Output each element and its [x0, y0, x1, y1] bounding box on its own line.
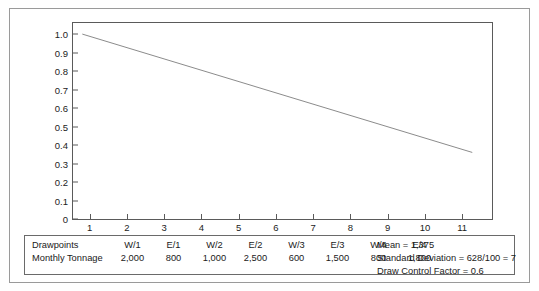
table-cell: E/2	[235, 239, 276, 252]
y-axis-tick-mark	[73, 126, 78, 127]
x-axis-tick-label: 4	[199, 222, 204, 233]
y-axis-tick-label: 0.3	[55, 158, 68, 169]
table-cell: E/1	[153, 239, 194, 252]
table-cell: W/1	[112, 239, 153, 252]
summary-note-line: Draw Control Factor = 0.6	[377, 265, 516, 278]
y-axis-tick-label: 0.5	[55, 121, 68, 132]
table-cell: 2,000	[112, 252, 153, 265]
x-axis-tick-mark	[276, 214, 277, 219]
table-row-label: Drawpoints	[32, 239, 112, 252]
summary-note-line: Standard Deviation = 628/100 = 7	[377, 252, 516, 265]
y-axis-tick-label: 0.7	[55, 84, 68, 95]
x-axis-tick-label: 6	[273, 222, 278, 233]
x-axis-tick-mark	[164, 214, 165, 219]
y-axis-tick-label: 0.4	[55, 140, 68, 151]
y-axis-tick-mark	[73, 163, 78, 164]
y-axis-tick-label: 0.8	[55, 66, 68, 77]
line-series-draw-control-factor	[73, 23, 492, 219]
table-cell: 600	[276, 252, 317, 265]
table-cell: E/3	[317, 239, 358, 252]
y-axis-tick-label: 0.1	[55, 195, 68, 206]
plot-inner: 00.10.20.30.40.50.60.70.80.91.0123456789…	[73, 23, 492, 219]
figure-root: 00.10.20.30.40.50.60.70.80.91.0123456789…	[0, 0, 539, 291]
x-axis-tick-mark	[313, 214, 314, 219]
x-axis-tick-label: 3	[162, 222, 167, 233]
x-axis-tick-mark	[462, 214, 463, 219]
y-axis-tick-mark	[73, 200, 78, 201]
table-row-label: Monthly Tonnage	[32, 252, 112, 265]
chart-area: 00.10.20.30.40.50.60.70.80.91.0123456789…	[20, 14, 510, 226]
x-axis-tick-label: 8	[348, 222, 353, 233]
y-axis-tick-mark	[73, 71, 78, 72]
x-axis-tick-label: 1	[87, 222, 92, 233]
y-axis-tick-mark	[73, 52, 78, 53]
y-axis-tick-label: 1.0	[55, 29, 68, 40]
summary-table-box: DrawpointsW/1E/1W/2E/2W/3E/3W/4E/4Monthl…	[24, 235, 515, 275]
plot-frame: 00.10.20.30.40.50.60.70.80.91.0123456789…	[72, 22, 493, 220]
y-axis-tick-mark	[73, 108, 78, 109]
y-axis-tick-label: 0.9	[55, 47, 68, 58]
x-axis-tick-mark	[425, 214, 426, 219]
table-cell: 1,500	[317, 252, 358, 265]
x-axis-tick-mark	[350, 214, 351, 219]
x-axis-tick-label: 10	[420, 222, 431, 233]
y-axis-tick-mark	[73, 34, 78, 35]
y-axis-tick-mark	[73, 89, 78, 90]
y-axis-tick-label: 0.2	[55, 177, 68, 188]
x-axis-tick-label: 7	[311, 222, 316, 233]
x-axis-tick-mark	[90, 214, 91, 219]
table-cell: W/3	[276, 239, 317, 252]
x-axis-tick-label: 2	[124, 222, 129, 233]
x-axis-tick-mark	[239, 214, 240, 219]
x-axis-tick-mark	[388, 214, 389, 219]
y-axis-tick-label: 0	[63, 214, 68, 225]
y-axis-tick-mark	[73, 182, 78, 183]
y-axis-tick-mark	[73, 219, 78, 220]
x-axis-tick-mark	[127, 214, 128, 219]
table-cell: 1,000	[194, 252, 235, 265]
x-axis-tick-label: 11	[457, 222, 467, 233]
x-axis-tick-label: 9	[385, 222, 390, 233]
table-cell: W/2	[194, 239, 235, 252]
series-line	[82, 34, 472, 152]
y-axis-tick-label: 0.6	[55, 103, 68, 114]
summary-notes: Mean = 1,375Standard Deviation = 628/100…	[377, 239, 516, 278]
x-axis-tick-mark	[201, 214, 202, 219]
y-axis-tick-mark	[73, 145, 78, 146]
x-axis-tick-label: 5	[236, 222, 241, 233]
summary-note-line: Mean = 1,375	[377, 239, 516, 252]
table-cell: 800	[153, 252, 194, 265]
table-cell: 2,500	[235, 252, 276, 265]
